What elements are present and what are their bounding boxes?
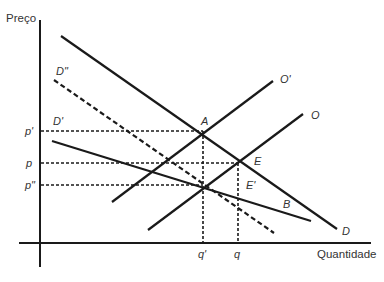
price-label-p: p [25, 157, 32, 169]
curve-label-o-prime: O' [280, 73, 292, 85]
x-axis-label: Quantidade [317, 248, 376, 260]
curve-label-d: D [342, 225, 350, 237]
point-label-e: E [254, 155, 262, 167]
quantity-label-q-prime: q' [198, 248, 207, 260]
curve-label-o: O [311, 109, 320, 121]
curve-label-d-prime: D' [53, 115, 64, 127]
point-label-a: A [200, 115, 208, 127]
quantity-label-q: q [234, 248, 241, 260]
supply-demand-diagram: Preço Quantidade p' p p" q' q D D" D' O'… [0, 0, 384, 282]
demand-curve-d-prime [52, 141, 311, 221]
curve-label-d-double-prime: D" [56, 65, 69, 77]
demand-curve-d-double-prime [54, 80, 274, 233]
price-label-p-prime: p' [24, 125, 34, 137]
point-label-b: B [283, 198, 290, 210]
y-axis-label: Preço [6, 12, 36, 24]
point-label-e-prime: E' [246, 179, 256, 191]
demand-curve-d [61, 36, 337, 229]
price-label-p-double-prime: p" [24, 179, 36, 191]
